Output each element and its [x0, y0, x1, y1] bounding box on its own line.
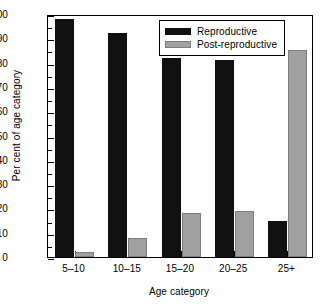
y-tick-major — [48, 89, 54, 90]
y-tick-label: 20 — [0, 204, 8, 214]
y-tick-minor — [48, 101, 52, 102]
y-tick-minor — [48, 247, 52, 248]
y-tick-minor — [48, 150, 52, 151]
legend-item-reproductive: Reproductive — [165, 25, 277, 38]
y-tick-label: 0 — [0, 253, 8, 263]
bar-post-reproductive-1 — [128, 238, 147, 257]
x-tick-label: 20–25 — [203, 263, 263, 274]
plot-area: ReproductivePost-reproductive — [47, 15, 313, 258]
y-tick-minor — [48, 198, 52, 199]
legend-label: Post-reproductive — [197, 39, 277, 50]
figure: Per cent of age category ReproductivePos… — [0, 0, 326, 308]
y-tick-minor — [48, 223, 52, 224]
y-tick-major — [48, 65, 54, 66]
y-tick-label: 60 — [0, 107, 8, 117]
legend: ReproductivePost-reproductive — [159, 20, 285, 56]
legend-item-post-reproductive: Post-reproductive — [165, 38, 277, 51]
legend-swatch-icon — [165, 28, 191, 35]
y-tick-major — [48, 138, 54, 139]
y-tick-major — [48, 16, 54, 17]
x-tick-label: 10–15 — [97, 263, 157, 274]
y-tick-label: 50 — [0, 132, 8, 142]
y-tick-label: 90 — [0, 34, 8, 44]
y-tick-minor — [48, 28, 52, 29]
y-tick-minor — [48, 52, 52, 53]
y-tick-label: 40 — [0, 156, 8, 166]
bar-reproductive-4 — [268, 221, 287, 257]
bar-reproductive-3 — [215, 60, 234, 257]
y-tick-major — [48, 162, 54, 163]
bar-post-reproductive-3 — [235, 211, 254, 257]
bar-post-reproductive-4 — [288, 50, 307, 257]
y-tick-major — [48, 235, 54, 236]
bar-post-reproductive-0 — [75, 252, 94, 257]
y-tick-major — [48, 113, 54, 114]
bar-post-reproductive-2 — [182, 213, 201, 257]
legend-swatch-icon — [165, 41, 191, 48]
bar-reproductive-0 — [55, 19, 74, 257]
x-tick-label: 25+ — [256, 263, 316, 274]
y-axis-title: Per cent of age category — [11, 26, 22, 226]
y-tick-major — [48, 259, 54, 260]
y-tick-major — [48, 210, 54, 211]
y-tick-label: 70 — [0, 83, 8, 93]
x-tick-label: 15–20 — [150, 263, 210, 274]
legend-label: Reproductive — [197, 26, 257, 37]
y-tick-major — [48, 186, 54, 187]
y-tick-label: 100 — [0, 10, 8, 20]
x-tick-label: 5–10 — [44, 263, 104, 274]
y-tick-major — [48, 40, 54, 41]
y-tick-minor — [48, 174, 52, 175]
x-axis-title: Age category — [44, 286, 314, 297]
bar-reproductive-1 — [108, 33, 127, 257]
y-tick-minor — [48, 125, 52, 126]
bar-reproductive-2 — [162, 58, 181, 257]
y-tick-minor — [48, 77, 52, 78]
y-tick-label: 10 — [0, 229, 8, 239]
y-tick-label: 30 — [0, 180, 8, 190]
y-tick-label: 80 — [0, 59, 8, 69]
